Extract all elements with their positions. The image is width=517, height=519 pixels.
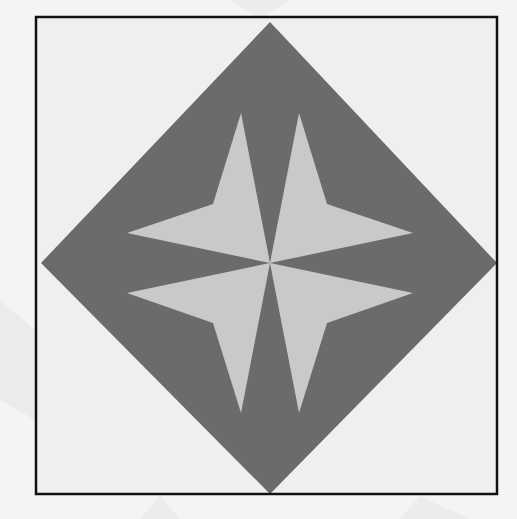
quilt-figure: Quilt block: four-pointed star in diamon… bbox=[0, 0, 517, 519]
quilt-block-canvas bbox=[0, 0, 517, 519]
